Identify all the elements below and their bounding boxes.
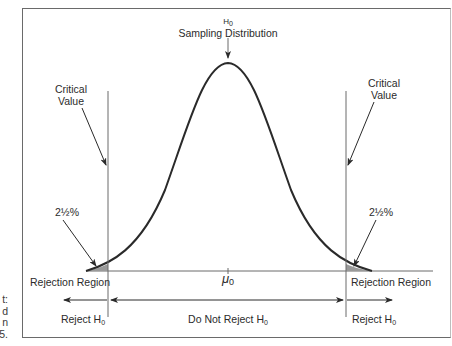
reject-h0-right: Reject H0 (349, 313, 399, 329)
rejection-region-left: Rejection Region (30, 276, 110, 288)
critical-value-left-label: CriticalValue (46, 83, 96, 107)
tail-pct-right: 2½% (366, 206, 396, 218)
sampling-distribution-label: Sampling Distribution (168, 27, 288, 39)
rejection-region-right: Rejection Region (349, 276, 433, 288)
pct-arrow-left (63, 220, 96, 266)
mean-label: μ0 (208, 272, 248, 289)
reject-h0-left: Reject H0 (58, 313, 108, 329)
tail-pct-left: 2½% (52, 206, 82, 218)
side-caption: t: d n 5. (0, 294, 8, 340)
critical-arrow-right (348, 102, 374, 165)
critical-value-right-label: CriticalValue (359, 77, 409, 101)
critical-arrow-left (82, 108, 106, 165)
do-not-reject-h0: Do Not Reject H0 (178, 313, 278, 329)
bell-curve (86, 63, 372, 271)
sampling-distribution-diagram (0, 0, 452, 346)
pct-arrow-right (354, 220, 376, 266)
